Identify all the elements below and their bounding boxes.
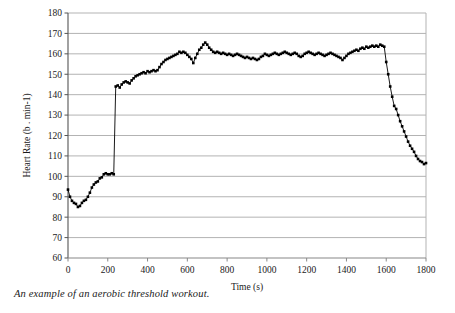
data-series-line — [68, 43, 426, 207]
x-axis-title: Time (s) — [231, 282, 263, 293]
data-point — [405, 135, 408, 138]
x-tick-label: 1200 — [297, 265, 316, 275]
data-point — [128, 82, 131, 85]
y-tick-label: 170 — [48, 29, 63, 39]
data-point — [158, 66, 161, 69]
y-tick-label: 120 — [48, 131, 63, 141]
data-point — [413, 151, 416, 154]
data-point — [401, 125, 404, 128]
x-tick-label: 400 — [140, 265, 155, 275]
data-point — [397, 114, 400, 117]
data-point — [385, 61, 388, 64]
data-series-markers — [67, 41, 428, 208]
data-point — [101, 176, 104, 179]
x-tick-label: 800 — [220, 265, 235, 275]
y-tick-label: 110 — [48, 151, 62, 161]
heart-rate-chart: 6070809010011012013014015016017018002004… — [0, 0, 455, 313]
data-point — [407, 140, 410, 143]
y-tick-label: 140 — [48, 90, 63, 100]
data-point — [156, 69, 159, 72]
data-point — [415, 155, 418, 158]
data-point — [67, 188, 70, 191]
data-point — [91, 186, 94, 189]
data-point — [79, 205, 82, 208]
data-point — [85, 199, 88, 202]
data-point — [206, 43, 209, 46]
y-tick-label: 80 — [53, 213, 63, 223]
x-tick-label: 1800 — [417, 265, 436, 275]
data-point — [403, 130, 406, 133]
figure-caption: An example of an aerobic threshold worko… — [14, 288, 210, 299]
y-tick-label: 150 — [48, 70, 63, 80]
data-point — [87, 195, 90, 198]
y-tick-label: 90 — [53, 192, 63, 202]
data-point — [389, 85, 392, 88]
data-point — [387, 73, 390, 76]
x-tick-label: 0 — [66, 265, 71, 275]
x-tick-label: 1000 — [257, 265, 276, 275]
data-point — [194, 57, 197, 60]
data-point — [409, 144, 412, 147]
figure-container: 6070809010011012013014015016017018002004… — [0, 0, 455, 313]
data-point — [395, 108, 398, 111]
x-tick-label: 1400 — [337, 265, 356, 275]
data-point — [69, 195, 72, 198]
data-point — [97, 180, 100, 183]
data-point — [425, 162, 428, 165]
y-axis-title: Heart Rate (b . min-1) — [22, 93, 33, 177]
data-point — [391, 95, 394, 98]
data-point — [112, 173, 115, 176]
data-point — [383, 45, 386, 48]
y-tick-label: 160 — [48, 49, 63, 59]
data-point — [393, 105, 396, 108]
data-point — [200, 46, 203, 49]
data-point — [190, 58, 193, 61]
data-point — [399, 120, 402, 123]
x-tick-label: 600 — [180, 265, 195, 275]
data-point — [196, 53, 199, 56]
y-tick-label: 100 — [48, 172, 63, 182]
data-point — [89, 191, 92, 194]
data-point — [411, 147, 414, 150]
data-point — [118, 86, 121, 89]
data-point — [75, 203, 78, 206]
data-point — [192, 62, 195, 65]
y-tick-label: 70 — [53, 233, 63, 243]
x-tick-label: 1600 — [377, 265, 396, 275]
x-tick-label: 200 — [101, 265, 116, 275]
y-tick-label: 60 — [53, 253, 63, 263]
y-tick-label: 130 — [48, 110, 63, 120]
y-tick-label: 180 — [48, 8, 63, 18]
